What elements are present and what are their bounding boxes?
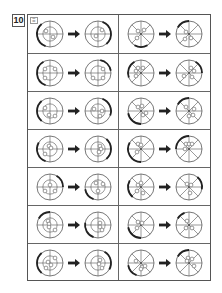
transformation-figure xyxy=(119,92,211,130)
transformation-figure xyxy=(28,15,120,53)
grid-row xyxy=(28,167,210,205)
question-number: 10 xyxy=(12,14,25,27)
transformation-figure xyxy=(119,54,211,92)
grid-row xyxy=(28,205,210,243)
cell-left xyxy=(28,130,119,167)
transformation-figure xyxy=(28,206,120,244)
transformation-figure xyxy=(28,130,120,168)
arrow-right-icon xyxy=(68,30,80,38)
transformation-figure xyxy=(119,244,211,282)
transformation-figure xyxy=(119,206,211,244)
transformation-figure xyxy=(28,54,120,92)
arrow-right-icon xyxy=(68,145,80,153)
arrow-right-icon xyxy=(159,259,171,267)
arrow-right-icon xyxy=(68,259,80,267)
grid-row: ☰ xyxy=(28,15,210,53)
arrow-right-icon xyxy=(159,145,171,153)
grid-row xyxy=(28,91,210,129)
arrow-right-icon xyxy=(159,30,171,38)
cell-right xyxy=(119,244,210,280)
cell-right xyxy=(119,168,210,205)
grid-row xyxy=(28,53,210,91)
arrow-right-icon xyxy=(68,69,80,77)
transformation-figure xyxy=(28,92,120,130)
cell-right xyxy=(119,130,210,167)
cell-right xyxy=(119,92,210,129)
puzzle-grid: ☰ xyxy=(27,14,211,281)
grid-row xyxy=(28,129,210,167)
arrow-right-icon xyxy=(68,183,80,191)
cell-left xyxy=(28,54,119,91)
example-badge-icon: ☰ xyxy=(30,17,38,24)
cell-right xyxy=(119,206,210,243)
arrow-right-icon xyxy=(159,107,171,115)
cell-left: ☰ xyxy=(28,15,119,53)
cell-right xyxy=(119,54,210,91)
transformation-figure xyxy=(28,244,120,282)
cell-left xyxy=(28,244,119,280)
arrow-right-icon xyxy=(159,221,171,229)
transformation-figure xyxy=(119,130,211,168)
arrow-right-icon xyxy=(159,183,171,191)
transformation-figure xyxy=(119,15,211,53)
transformation-figure xyxy=(119,168,211,206)
cell-right xyxy=(119,15,210,53)
cell-left xyxy=(28,168,119,205)
arrow-right-icon xyxy=(68,107,80,115)
transformation-figure xyxy=(28,168,120,206)
arrow-right-icon xyxy=(159,69,171,77)
arrow-right-icon xyxy=(68,221,80,229)
grid-row xyxy=(28,243,210,280)
cell-left xyxy=(28,206,119,243)
cell-left xyxy=(28,92,119,129)
